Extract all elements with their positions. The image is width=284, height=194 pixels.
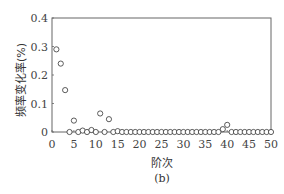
data-point xyxy=(71,118,76,123)
data-point xyxy=(268,129,273,134)
x-tick-label: 25 xyxy=(155,138,169,151)
x-tick-label: 50 xyxy=(264,138,278,151)
x-tick-label: 35 xyxy=(198,138,212,151)
data-point xyxy=(106,117,111,122)
data-point xyxy=(63,88,68,93)
data-point xyxy=(93,129,98,134)
y-tick-label: 0 xyxy=(41,126,48,139)
y-tick-label: 0.2 xyxy=(31,69,49,82)
x-tick-label: 45 xyxy=(242,138,256,151)
x-tick-label: 30 xyxy=(176,138,190,151)
x-axis-title: 阶次 xyxy=(0,154,284,170)
x-tick-label: 10 xyxy=(89,138,103,151)
data-point xyxy=(54,47,59,52)
data-point xyxy=(220,127,225,132)
x-tick-label: 20 xyxy=(133,138,147,151)
y-tick-label: 0.1 xyxy=(31,98,49,111)
y-tick-label: 0.4 xyxy=(31,12,49,25)
x-tick-label: 0 xyxy=(49,138,56,151)
data-point xyxy=(98,111,103,116)
plot-frame xyxy=(52,18,271,132)
data-point xyxy=(102,129,107,134)
data-point xyxy=(225,122,230,127)
data-point xyxy=(58,61,63,66)
y-tick-label: 0.3 xyxy=(31,41,49,54)
data-point xyxy=(67,129,72,134)
y-axis-title: 频率变化率(%) xyxy=(14,43,28,117)
x-tick-label: 5 xyxy=(70,138,77,151)
data-points xyxy=(54,47,274,135)
figure-caption: (b) xyxy=(0,172,284,185)
x-tick-label: 40 xyxy=(220,138,234,151)
x-tick-label: 15 xyxy=(111,138,125,151)
